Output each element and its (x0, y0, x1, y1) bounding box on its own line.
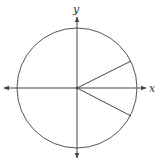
y-axis-label: y (72, 3, 80, 16)
unit-circle-diagram: x y (0, 0, 159, 162)
x-axis-label: x (149, 82, 156, 95)
upper-radius (77, 61, 131, 88)
origin-point (76, 87, 79, 90)
lower-radius (77, 88, 131, 116)
